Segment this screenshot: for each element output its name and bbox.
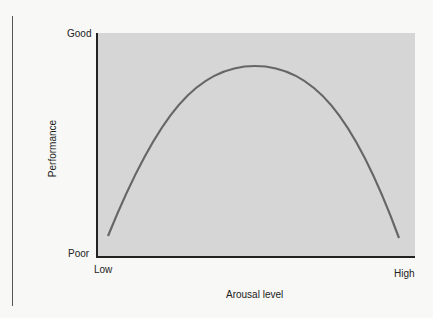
y-tick-good: Good bbox=[67, 28, 91, 39]
y-axis-label: Performance bbox=[47, 114, 58, 184]
page-border bbox=[12, 16, 13, 306]
x-tick-high: High bbox=[394, 268, 415, 279]
x-tick-low: Low bbox=[94, 264, 112, 275]
x-axis-label: Arousal level bbox=[226, 289, 283, 300]
y-tick-poor: Poor bbox=[68, 248, 89, 259]
inverted-u-curve bbox=[98, 33, 415, 256]
plot-area bbox=[96, 33, 415, 258]
